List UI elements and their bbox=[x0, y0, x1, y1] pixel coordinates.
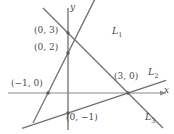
line-label-L3-sub: 3 bbox=[151, 117, 155, 125]
line-label-L3: L3 bbox=[145, 112, 155, 124]
point-label-0-3: (0, 3) bbox=[34, 26, 58, 35]
x-axis-label: x bbox=[164, 86, 169, 95]
point-0-2 bbox=[66, 51, 69, 54]
point-3-0 bbox=[126, 91, 129, 94]
line-label-L1-sub: 1 bbox=[118, 31, 122, 39]
y-axis-label: y bbox=[70, 3, 75, 12]
coordinate-plane-figure: y x (0, 3) (0, 2) (−1, 0) (3, 0) (0, −1)… bbox=[0, 0, 174, 134]
line-label-L1: L1 bbox=[112, 26, 122, 38]
point-label-0-neg1: (0, −1) bbox=[66, 113, 98, 122]
point-label-0-2: (0, 2) bbox=[34, 43, 58, 52]
line-label-L2-sub: 2 bbox=[154, 72, 158, 80]
line-label-L2: L2 bbox=[148, 67, 158, 79]
point-label-3-0: (3, 0) bbox=[114, 72, 138, 81]
point-neg1-0 bbox=[46, 91, 49, 94]
point-0-3 bbox=[66, 31, 69, 34]
point-label-neg1-0: (−1, 0) bbox=[11, 79, 43, 88]
